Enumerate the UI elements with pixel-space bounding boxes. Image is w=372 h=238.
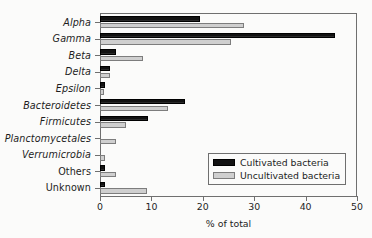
y-axis-label: Others [0,163,93,180]
y-axis-label: Firmicutes [0,113,93,130]
bar-uncultivated [100,89,104,94]
x-axis-tick-label: 50 [351,201,363,212]
bar-cultivated [100,66,110,71]
bar-cultivated [100,82,105,87]
bar-slot [100,23,357,28]
y-axis-label: Delta [0,64,93,81]
bar-slot [100,66,357,71]
bar-uncultivated [100,73,110,78]
bar-slot [100,89,357,94]
bar-uncultivated [100,23,244,28]
bar-chart: AlphaGammaBetaDeltaEpsilonBacteroidetesF… [0,0,372,238]
bar-slot [100,16,357,21]
legend-label-uncultivated: Uncultivated bacteria [240,170,340,181]
chart-legend: Cultivated bacteria Uncultivated bacteri… [208,153,346,185]
bar-cultivated [100,116,148,121]
bar-cultivated [100,165,105,170]
bar-slot [100,39,357,44]
bar-slot [100,188,357,193]
y-axis-label: Alpha [0,14,93,31]
table-row [100,64,357,81]
legend-item-uncultivated: Uncultivated bacteria [213,170,340,181]
x-axis-tick-label: 30 [248,201,260,212]
bar-uncultivated [100,139,116,144]
y-axis-label: Verrumicrobia [0,146,93,163]
y-axis-label: Planctomycetales [0,130,93,147]
bar-slot [100,116,357,121]
y-axis-label: Gamma [0,31,93,48]
x-axis-tick-label: 40 [300,201,312,212]
legend-label-cultivated: Cultivated bacteria [240,157,329,168]
legend-item-cultivated: Cultivated bacteria [213,157,340,168]
x-axis-tick-label: 0 [97,201,103,212]
bar-slot [100,49,357,54]
table-row [100,31,357,48]
bar-uncultivated [100,172,116,177]
bar-slot [100,122,357,127]
table-row [100,14,357,31]
y-axis-label: Unknown [0,179,93,196]
bar-slot [100,73,357,78]
x-axis-tick-label: 10 [145,201,157,212]
bar-cultivated [100,16,200,21]
y-axis-label: Epsilon [0,80,93,97]
table-row [100,80,357,97]
x-axis-tick-labels: 01020304050 [100,201,357,215]
bar-slot [100,106,357,111]
bar-uncultivated [100,39,231,44]
bar-slot [100,99,357,104]
y-axis-label: Bacteroidetes [0,97,93,114]
legend-swatch-uncultivated-icon [213,172,235,179]
bar-uncultivated [100,122,126,127]
table-row [100,113,357,130]
legend-swatch-cultivated-icon [213,159,235,166]
bar-uncultivated [100,188,147,193]
bar-uncultivated [100,155,105,160]
bar-uncultivated [100,56,143,61]
bar-cultivated [100,99,185,104]
bar-cultivated [100,182,105,187]
bar-slot [100,56,357,61]
x-axis-tick-label: 20 [197,201,209,212]
table-row [100,130,357,147]
table-row [100,97,357,114]
bar-uncultivated [100,106,168,111]
bar-slot [100,132,357,137]
bar-slot [100,139,357,144]
bar-cultivated [100,49,116,54]
y-axis-label: Beta [0,47,93,64]
bar-slot [100,82,357,87]
bar-cultivated [100,33,335,38]
y-axis-labels: AlphaGammaBetaDeltaEpsilonBacteroidetesF… [0,14,93,196]
bar-slot [100,33,357,38]
x-axis-title: % of total [100,218,357,229]
table-row [100,47,357,64]
